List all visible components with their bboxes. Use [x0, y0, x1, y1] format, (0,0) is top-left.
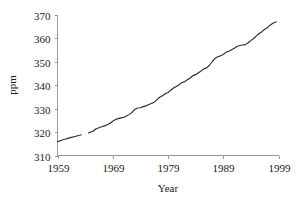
- x-axis-title: Year: [158, 182, 179, 194]
- y-tick-label: 340: [34, 80, 51, 92]
- x-tick-label: 1979: [158, 162, 181, 174]
- data-series-co2: [58, 22, 277, 142]
- y-axis: 310320330340350360370 ppm: [6, 10, 58, 163]
- x-tick-labels: 19591969197919891999: [48, 162, 292, 174]
- x-tick-label: 1989: [213, 162, 236, 174]
- y-tick-labels: 310320330340350360370: [34, 10, 51, 163]
- co2-concentration-chart: 310320330340350360370 ppm 19591969197919…: [0, 0, 303, 205]
- y-axis-title: ppm: [6, 75, 18, 95]
- y-tick-label: 360: [34, 33, 51, 45]
- y-tick-label: 370: [34, 10, 51, 22]
- series-line-segment-1: [58, 135, 82, 142]
- x-tick-label: 1959: [48, 162, 71, 174]
- x-tick-label: 1999: [269, 162, 292, 174]
- y-tick-label: 350: [34, 57, 51, 69]
- y-tick-label: 330: [34, 104, 51, 116]
- chart-plot-area: 310320330340350360370 ppm 19591969197919…: [0, 0, 303, 205]
- y-tick-label: 320: [34, 127, 51, 139]
- x-axis: 19591969197919891999 Year: [48, 156, 292, 195]
- series-line-segment-2: [88, 22, 276, 133]
- x-tick-label: 1969: [103, 162, 126, 174]
